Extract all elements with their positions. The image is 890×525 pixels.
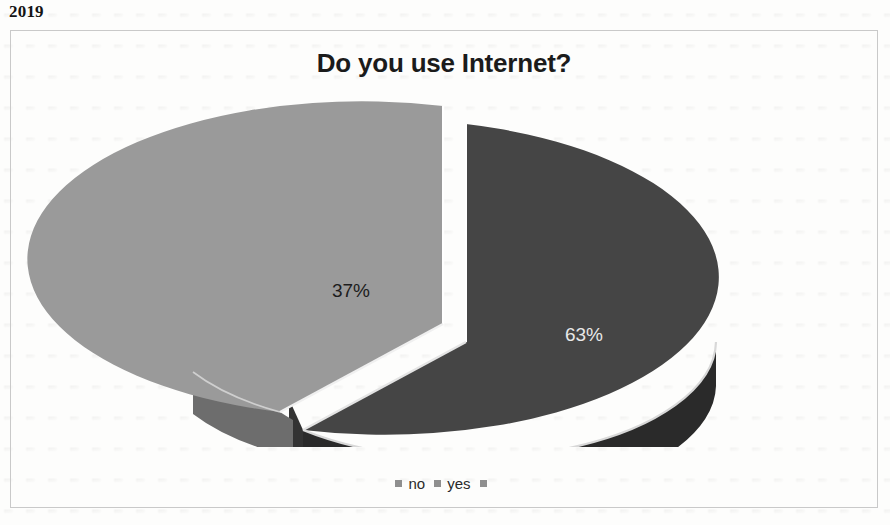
pie-slice-yes-label: 63% — [565, 324, 603, 345]
chart-frame: Do you use Internet? — [10, 30, 878, 508]
pie-slice-no-label: 37% — [332, 280, 370, 301]
legend-entry-yes[interactable]: yes — [434, 476, 470, 491]
scanned-page: 2019 Do you use Internet? — [0, 0, 890, 525]
legend-label-yes: yes — [447, 476, 470, 491]
year-label: 2019 — [9, 2, 44, 22]
legend-swatch-yes — [434, 480, 441, 487]
chart-legend: no yes — [11, 476, 877, 491]
chart-title: Do you use Internet? — [11, 48, 877, 79]
pie-chart-3d: 63% 37% — [11, 89, 877, 447]
legend-swatch-no — [395, 480, 402, 487]
legend-label-no: no — [408, 476, 425, 491]
pie-slice-no-top — [27, 101, 443, 412]
legend-swatch-extra — [480, 480, 487, 487]
legend-entry-no[interactable]: no — [395, 476, 425, 491]
legend-entry-extra[interactable] — [480, 480, 493, 487]
pie-plot-area: 63% 37% — [11, 89, 877, 447]
